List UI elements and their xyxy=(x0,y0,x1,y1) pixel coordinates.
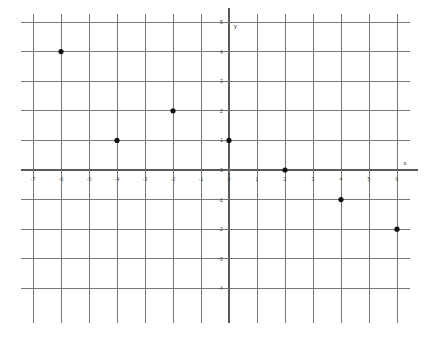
y-tick-label: 1 xyxy=(220,137,223,143)
data-point: (0, 1) xyxy=(226,138,231,143)
y-tick-label: -4 xyxy=(218,285,223,291)
x-tick-label: 5 xyxy=(368,176,371,182)
x-tick-label: 0 xyxy=(228,176,231,182)
x-axis-name-label: x xyxy=(404,160,407,166)
data-point: (-4, 1) xyxy=(114,138,119,143)
x-tick-label: 6 xyxy=(396,176,399,182)
data-point: (2, 0) xyxy=(282,167,287,172)
data-point: (4, -1) xyxy=(338,197,343,202)
x-tick-label: 1 xyxy=(256,176,259,182)
coordinate-plane-figure: -7-6-5-4-3-2-10123456543210-1-2-3-4 (-6,… xyxy=(0,0,431,341)
x-tick-label: -7 xyxy=(31,176,36,182)
y-tick-label: 3 xyxy=(220,78,223,84)
y-tick-label: 2 xyxy=(220,108,223,114)
scatter-plot-svg: -7-6-5-4-3-2-10123456543210-1-2-3-4 (-6,… xyxy=(0,0,431,341)
x-tick-label: 2 xyxy=(284,176,287,182)
y-tick-label: 0 xyxy=(220,167,223,173)
x-tick-label: -4 xyxy=(115,176,120,182)
y-tick-label: -3 xyxy=(218,256,223,262)
x-tick-label: -3 xyxy=(143,176,148,182)
x-tick-label: 4 xyxy=(340,176,343,182)
data-point: (6, -2) xyxy=(394,227,399,232)
x-tick-label: -6 xyxy=(59,176,64,182)
x-tick-label: -5 xyxy=(87,176,92,182)
x-tick-label: 3 xyxy=(312,176,315,182)
y-tick-label: 5 xyxy=(220,19,223,25)
y-tick-label: -2 xyxy=(218,226,223,232)
y-tick-label: -1 xyxy=(218,197,223,203)
y-axis-name-label: y xyxy=(234,23,237,29)
x-tick-label: -2 xyxy=(171,176,176,182)
data-point: (-6, 4) xyxy=(58,49,63,54)
data-point: (-2, 2) xyxy=(170,108,175,113)
y-tick-label: 4 xyxy=(220,49,223,55)
x-tick-label: -1 xyxy=(199,176,204,182)
